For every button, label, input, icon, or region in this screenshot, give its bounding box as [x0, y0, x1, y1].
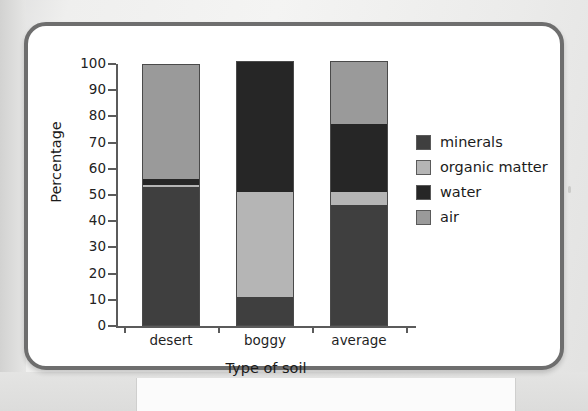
y-axis-tick-label: 40 [66, 214, 106, 228]
x-axis-tick-label-boggy: boggy [218, 334, 312, 348]
x-axis-tick [218, 326, 220, 333]
bar-segment-minerals [236, 297, 294, 326]
legend-item-water: water [416, 180, 566, 205]
x-axis-line [116, 326, 416, 328]
legend-label: organic matter [440, 160, 548, 175]
bar-segment-organic-matter [236, 192, 294, 297]
bar-segment-air [142, 64, 200, 179]
bar-segment-minerals [330, 205, 388, 326]
page-left-shadow [0, 0, 26, 411]
y-axis-tick-label: 100 [66, 57, 106, 71]
y-axis-tick-label: 0 [66, 319, 106, 333]
legend-swatch-icon [416, 210, 431, 225]
legend-item-organic-matter: organic matter [416, 155, 566, 180]
stacked-bar [236, 64, 294, 326]
y-axis-tick-label: 90 [66, 83, 106, 97]
y-axis-tick [108, 220, 116, 222]
x-axis-tick [124, 326, 126, 333]
y-axis-tick [108, 63, 116, 65]
bar-segment-water [330, 124, 388, 192]
legend-label: air [440, 210, 459, 225]
chart-card: 0102030405060708090100 desertboggyaverag… [24, 22, 564, 370]
bar-segment-water [236, 61, 294, 192]
x-axis-tick [406, 326, 408, 333]
chart-legend: mineralsorganic matterwaterair [416, 130, 566, 230]
bar-segment-minerals [142, 187, 200, 326]
y-axis-tick-label: 30 [66, 240, 106, 254]
chart-figure: 0102030405060708090100 desertboggyaverag… [28, 26, 560, 366]
page-lower-card [136, 378, 516, 411]
y-axis-title: Percentage [48, 92, 64, 232]
y-axis-tick-label: 80 [66, 109, 106, 123]
legend-item-minerals: minerals [416, 130, 566, 155]
bar-segment-organic-matter [142, 185, 200, 188]
bar-segment-organic-matter [330, 192, 388, 205]
y-axis-tick-label: 70 [66, 136, 106, 150]
y-axis-tick [108, 325, 116, 327]
legend-swatch-icon [416, 135, 431, 150]
y-axis-tick [108, 273, 116, 275]
page-speck [568, 186, 571, 193]
y-axis-tick [108, 142, 116, 144]
y-axis-tick [108, 299, 116, 301]
y-axis-tick-label: 10 [66, 293, 106, 307]
legend-swatch-icon [416, 160, 431, 175]
y-axis-tick [108, 115, 116, 117]
legend-label: water [440, 185, 481, 200]
legend-item-air: air [416, 205, 566, 230]
y-axis-tick [108, 194, 116, 196]
y-axis-tick-label: 20 [66, 267, 106, 281]
y-axis-tick [108, 246, 116, 248]
bar-segment-air [330, 61, 388, 124]
legend-swatch-icon [416, 185, 431, 200]
y-axis-tick-label: 50 [66, 188, 106, 202]
x-axis-tick [312, 326, 314, 333]
bar-segment-water [142, 179, 200, 184]
y-axis-tick [108, 168, 116, 170]
stacked-bar [142, 64, 200, 326]
stacked-bar [330, 64, 388, 326]
legend-label: minerals [440, 135, 503, 150]
x-axis-tick-label-average: average [312, 334, 406, 348]
x-axis-title: Type of soil [116, 360, 416, 376]
y-axis-tick-label: 60 [66, 162, 106, 176]
y-axis-tick [108, 89, 116, 91]
x-axis-tick-label-desert: desert [124, 334, 218, 348]
y-axis-line [116, 64, 118, 327]
